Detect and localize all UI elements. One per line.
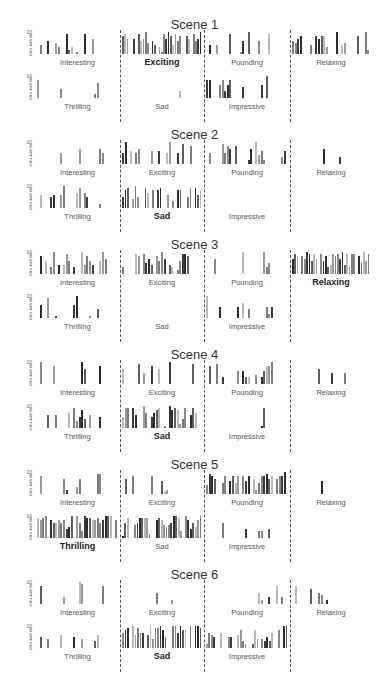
bar — [158, 408, 160, 428]
bar-plot-area — [204, 362, 290, 384]
panel-interesting: Interesting — [35, 580, 120, 624]
panel-label-exciting: Exciting — [120, 168, 204, 177]
panel-impressive: Impressive — [204, 74, 290, 118]
bar — [47, 298, 49, 318]
bar — [295, 586, 297, 604]
bar — [99, 204, 101, 208]
panel-label-sad: Sad — [120, 102, 204, 111]
bar — [206, 296, 208, 318]
bar — [127, 39, 129, 54]
panel-divider — [204, 140, 205, 232]
bar — [63, 186, 65, 208]
y-axis-ticks: 1086420 — [18, 74, 32, 100]
bar — [84, 369, 86, 384]
bar — [216, 45, 218, 54]
bar-plot-area — [35, 582, 120, 604]
bar-plot-area — [35, 296, 120, 318]
y-tick-label: 0 — [18, 316, 32, 320]
panel-relaxing: Relaxing — [290, 30, 372, 74]
bar — [53, 195, 55, 208]
bar-plot-area — [204, 472, 290, 494]
bar — [92, 39, 94, 54]
bar — [84, 419, 86, 428]
bar — [63, 597, 65, 604]
y-tick-label: 0 — [18, 162, 32, 166]
bar — [40, 362, 42, 384]
panel-impressive: Impressive — [204, 624, 290, 668]
top-row: 1086420InterestingExcitingPoundingRelaxi… — [0, 360, 389, 404]
bar — [105, 259, 107, 274]
panel-label-relaxing: Relaxing — [290, 277, 372, 287]
bar — [164, 259, 166, 274]
bar — [220, 633, 222, 648]
bar — [242, 87, 244, 98]
panel-thrilling: Thrilling — [35, 404, 120, 448]
panel-impressive: Impressive — [204, 514, 290, 558]
panel-exciting: Exciting — [120, 250, 204, 294]
bar — [138, 256, 140, 274]
panel-label-exciting: Exciting — [120, 388, 204, 397]
bar — [138, 364, 140, 384]
panel-divider — [120, 30, 121, 122]
bar — [149, 534, 151, 538]
bar — [97, 635, 99, 648]
panel-divider — [204, 250, 205, 342]
bar-plot-area — [35, 516, 120, 538]
bar — [300, 36, 302, 54]
panel-divider — [290, 360, 291, 452]
bar — [229, 80, 231, 98]
scene-4: Scene 41086420InterestingExcitingPoundin… — [0, 348, 389, 458]
bar — [242, 41, 244, 54]
bar — [180, 190, 182, 208]
bar — [180, 531, 182, 538]
bar — [257, 639, 259, 648]
bar — [200, 516, 202, 538]
panel-label-pounding: Pounding — [204, 58, 290, 67]
y-tick-label: 0 — [18, 96, 32, 100]
panel-divider — [204, 360, 205, 452]
bar — [271, 362, 273, 384]
panel-divider — [120, 140, 121, 232]
bar — [209, 80, 211, 98]
panel-label-thrilling: Thrilling — [35, 322, 120, 331]
panel-sad: Sad — [120, 184, 204, 228]
bar — [179, 91, 181, 98]
bar — [138, 149, 140, 164]
panel-divider — [290, 580, 291, 672]
bar-plot-area — [120, 406, 204, 428]
panel-label-pounding: Pounding — [204, 498, 290, 507]
panel-label-interesting: Interesting — [35, 388, 120, 397]
bar — [166, 490, 168, 494]
bar — [147, 43, 149, 54]
bar — [127, 628, 129, 648]
panel-label-exciting: Exciting — [120, 57, 204, 67]
bar — [60, 635, 62, 648]
bar — [169, 362, 171, 384]
y-axis-ticks: 1086420 — [18, 250, 32, 276]
panel-sad: Sad — [120, 404, 204, 448]
panel-divider — [290, 470, 291, 562]
bar — [143, 373, 145, 384]
bar — [190, 626, 192, 648]
bar — [40, 637, 42, 648]
bar-plot-area — [204, 516, 290, 538]
y-tick-label: 0 — [18, 272, 32, 276]
panel-label-interesting: Interesting — [35, 168, 120, 177]
panel-thrilling: Thrilling — [35, 294, 120, 338]
bar — [158, 151, 160, 164]
panel-sad: Sad — [120, 624, 204, 668]
bar-plot-area — [35, 472, 120, 494]
bar — [209, 366, 211, 384]
panel-label-impressive: Impressive — [204, 432, 290, 441]
panel-interesting: Interesting — [35, 140, 120, 184]
bar — [71, 516, 73, 538]
bar — [357, 36, 359, 54]
bar — [235, 146, 237, 164]
bar — [76, 52, 78, 54]
bar — [53, 366, 55, 384]
panel-label-interesting: Interesting — [35, 608, 120, 617]
bar — [171, 600, 173, 604]
panel-exciting: Exciting — [120, 30, 204, 74]
bar — [200, 628, 202, 648]
panel-exciting: Exciting — [120, 360, 204, 404]
